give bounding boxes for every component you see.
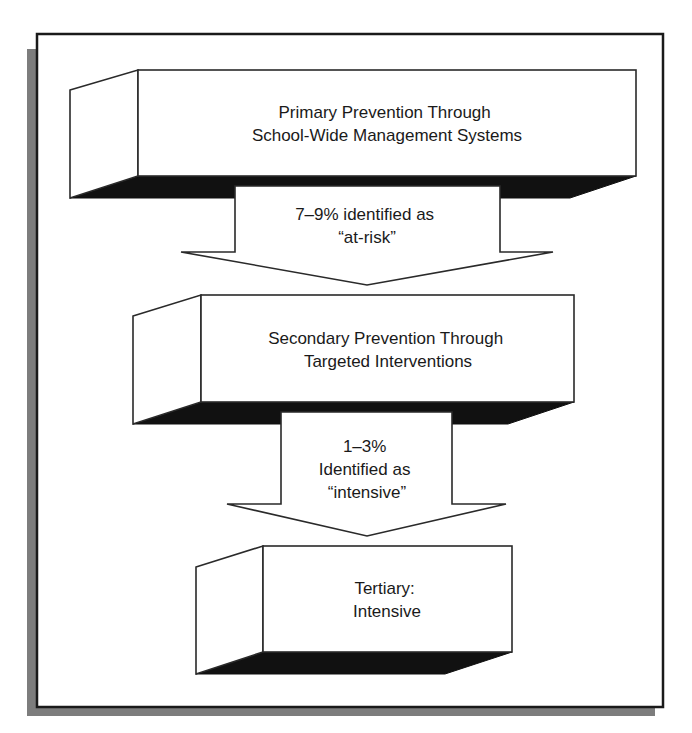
primary-prevention-box: Primary Prevention Through School-Wide M… xyxy=(70,70,636,198)
prevention-tiers-diagram: Primary Prevention Through School-Wide M… xyxy=(0,0,692,733)
secondary-box-front xyxy=(201,295,574,402)
secondary-prevention-box: Secondary Prevention Through Targeted In… xyxy=(133,295,574,424)
tertiary-box: Tertiary: Intensive xyxy=(196,546,512,674)
frame-shadow-left xyxy=(27,49,37,716)
secondary-box-side xyxy=(133,295,201,424)
tertiary-box-side xyxy=(196,546,263,674)
primary-box-front xyxy=(138,70,636,176)
primary-box-side xyxy=(70,70,138,198)
tertiary-box-front xyxy=(263,546,512,652)
